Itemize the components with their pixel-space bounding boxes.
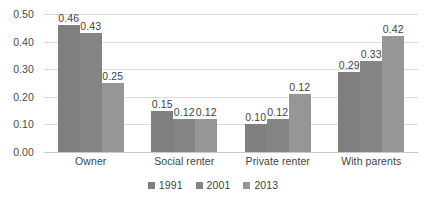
bar-group: 0.100.120.12 bbox=[231, 14, 325, 152]
bar-value-label: 0.25 bbox=[102, 70, 123, 82]
legend-label: 1991 bbox=[159, 179, 183, 191]
axis-baseline bbox=[44, 152, 418, 153]
legend-swatch-icon bbox=[148, 182, 155, 189]
x-axis-category-label: Private renter bbox=[231, 155, 325, 175]
bar-value-label: 0.46 bbox=[58, 12, 79, 24]
legend-swatch-icon bbox=[196, 182, 203, 189]
legend-swatch-icon bbox=[243, 182, 250, 189]
bar-slot: 0.12 bbox=[289, 14, 311, 152]
bar-value-label: 0.12 bbox=[289, 81, 310, 93]
bar[interactable] bbox=[195, 119, 217, 152]
bar-slot: 0.15 bbox=[151, 14, 173, 152]
bar-slot: 0.12 bbox=[173, 14, 195, 152]
bar-group: 0.150.120.12 bbox=[138, 14, 232, 152]
bar-value-label: 0.42 bbox=[383, 23, 404, 35]
legend-item[interactable]: 2013 bbox=[243, 179, 278, 191]
bar[interactable] bbox=[102, 83, 124, 152]
bar-value-label: 0.33 bbox=[361, 48, 382, 60]
y-axis-tick-label: 0.00 bbox=[13, 146, 34, 158]
bar-slot: 0.46 bbox=[58, 14, 80, 152]
y-axis-tick-label: 0.30 bbox=[13, 63, 34, 75]
bar-value-label: 0.29 bbox=[339, 59, 360, 71]
legend: 199120012013 bbox=[0, 179, 426, 191]
bar-slot: 0.29 bbox=[338, 14, 360, 152]
plot-area: 0.460.430.250.150.120.120.100.120.120.29… bbox=[44, 14, 418, 152]
bar-slot: 0.10 bbox=[245, 14, 267, 152]
bar-value-label: 0.12 bbox=[196, 106, 217, 118]
bar-slot: 0.42 bbox=[382, 14, 404, 152]
bar[interactable] bbox=[245, 124, 267, 152]
bar-slot: 0.25 bbox=[102, 14, 124, 152]
bar[interactable] bbox=[173, 119, 195, 152]
x-axis-category-label: Owner bbox=[44, 155, 138, 175]
legend-label: 2001 bbox=[207, 179, 231, 191]
bar-group-bars: 0.460.430.25 bbox=[44, 14, 138, 152]
bar-groups: 0.460.430.250.150.120.120.100.120.120.29… bbox=[44, 14, 418, 152]
bar-group: 0.290.330.42 bbox=[325, 14, 419, 152]
bar[interactable] bbox=[289, 94, 311, 152]
bar-value-label: 0.12 bbox=[174, 106, 195, 118]
bar-value-label: 0.15 bbox=[152, 98, 173, 110]
bar-value-label: 0.10 bbox=[245, 111, 266, 123]
bar-slot: 0.12 bbox=[267, 14, 289, 152]
bar-group: 0.460.430.25 bbox=[44, 14, 138, 152]
bar-group-bars: 0.100.120.12 bbox=[231, 14, 325, 152]
bar-chart: 0.000.100.200.300.400.50 0.460.430.250.1… bbox=[0, 0, 426, 203]
bar-slot: 0.33 bbox=[360, 14, 382, 152]
x-axis-category-label: With parents bbox=[325, 155, 419, 175]
legend-label: 2013 bbox=[254, 179, 278, 191]
y-axis-tick-label: 0.10 bbox=[13, 118, 34, 130]
bar[interactable] bbox=[58, 25, 80, 152]
legend-item[interactable]: 2001 bbox=[196, 179, 231, 191]
bar-group-bars: 0.150.120.12 bbox=[138, 14, 232, 152]
bar[interactable] bbox=[267, 119, 289, 152]
bar-value-label: 0.43 bbox=[80, 20, 101, 32]
y-axis-tick-label: 0.40 bbox=[13, 36, 34, 48]
legend-item[interactable]: 1991 bbox=[148, 179, 183, 191]
bar[interactable] bbox=[360, 61, 382, 152]
bar[interactable] bbox=[80, 33, 102, 152]
y-axis-tick-label: 0.50 bbox=[13, 8, 34, 20]
bar-group-bars: 0.290.330.42 bbox=[325, 14, 419, 152]
bar-slot: 0.12 bbox=[195, 14, 217, 152]
y-axis-tick-label: 0.20 bbox=[13, 91, 34, 103]
bar-value-label: 0.12 bbox=[267, 106, 288, 118]
bar-slot: 0.43 bbox=[80, 14, 102, 152]
bar[interactable] bbox=[382, 36, 404, 152]
y-axis: 0.000.100.200.300.400.50 bbox=[0, 14, 40, 152]
x-axis-category-labels: OwnerSocial renterPrivate renterWith par… bbox=[44, 155, 418, 175]
bar[interactable] bbox=[151, 111, 173, 152]
x-axis-category-label: Social renter bbox=[138, 155, 232, 175]
bar[interactable] bbox=[338, 72, 360, 152]
